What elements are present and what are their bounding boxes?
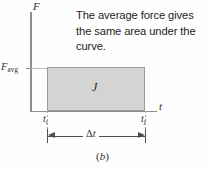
t-initial-subscript: i [46, 118, 48, 126]
time-initial-label: ti [43, 113, 48, 126]
favg-subscript: avg [7, 66, 18, 74]
delta-t-right-arrow-icon [138, 132, 145, 138]
favg-axis-value-label: Favg [1, 61, 18, 74]
time-final-label: tf [141, 113, 146, 126]
impulse-symbol-label: J [92, 80, 97, 95]
force-axis-line [30, 12, 32, 112]
delta-t-label: Δt [83, 128, 99, 139]
impulse-average-force-figure: The average force gives the same area un… [0, 0, 211, 171]
panel-letter: (b) [96, 150, 109, 162]
force-axis-label: F [33, 0, 40, 12]
delta-variable: t [93, 128, 96, 139]
delta-t-left-arrow-icon [48, 132, 55, 138]
figure-caption-text: The average force gives the same area un… [76, 8, 208, 55]
t-final-subscript: f [144, 118, 146, 126]
panel-letter-close-paren: ) [105, 150, 109, 162]
time-axis-label: t [159, 100, 162, 112]
delta-symbol: Δ [86, 128, 93, 139]
delta-t-right-endcap [145, 129, 146, 143]
favg-leader-line [31, 68, 48, 69]
